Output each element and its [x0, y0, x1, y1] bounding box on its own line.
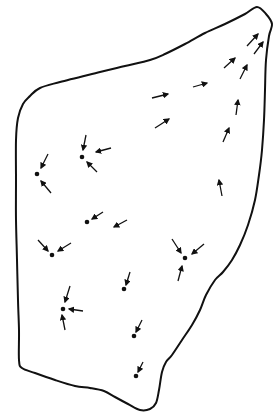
- sink-dot: [183, 256, 188, 261]
- flow-arrow-icon: [236, 100, 238, 115]
- flow-arrow-icon: [38, 240, 48, 251]
- sink-dot: [85, 220, 90, 225]
- sink-dot: [132, 334, 137, 339]
- sink-dot: [50, 253, 55, 258]
- flow-arrow-icon: [83, 135, 86, 150]
- flow-arrow-icon: [92, 212, 103, 219]
- sink-dot: [134, 374, 139, 379]
- flow-arrow-icon: [114, 220, 127, 227]
- flow-arrow-icon: [69, 309, 83, 311]
- sink-dot: [61, 307, 66, 312]
- flow-arrow-icon: [254, 42, 263, 54]
- flow-arrow-icon: [126, 272, 130, 285]
- diagram-canvas: [0, 0, 276, 418]
- flow-arrow-icon: [155, 119, 169, 128]
- flow-arrow-icon: [172, 239, 181, 253]
- flow-arrows: [38, 34, 263, 372]
- flow-arrow-icon: [193, 83, 207, 87]
- flow-arrow-icon: [223, 128, 229, 142]
- flow-arrow-icon: [152, 94, 168, 98]
- flow-arrow-icon: [41, 154, 48, 168]
- sink-dot: [122, 287, 127, 292]
- flow-arrow-icon: [192, 244, 204, 254]
- flow-arrow-icon: [219, 180, 222, 196]
- flow-arrow-icon: [96, 148, 111, 152]
- flow-arrow-icon: [41, 181, 51, 193]
- region-outline: [16, 7, 272, 410]
- sink-points: [35, 155, 188, 379]
- flow-arrow-icon: [58, 243, 71, 251]
- flow-arrow-icon: [224, 58, 235, 68]
- flow-arrow-icon: [87, 162, 97, 172]
- flow-arrow-icon: [65, 286, 70, 302]
- sink-dot: [80, 155, 85, 160]
- flow-arrow-icon: [240, 65, 247, 79]
- sink-dot: [35, 172, 40, 177]
- flow-arrow-icon: [247, 34, 258, 46]
- flow-arrow-icon: [136, 320, 142, 332]
- flow-diagram: [0, 0, 276, 418]
- flow-arrow-icon: [62, 315, 65, 330]
- flow-arrow-icon: [138, 362, 143, 372]
- flow-arrow-icon: [178, 266, 182, 281]
